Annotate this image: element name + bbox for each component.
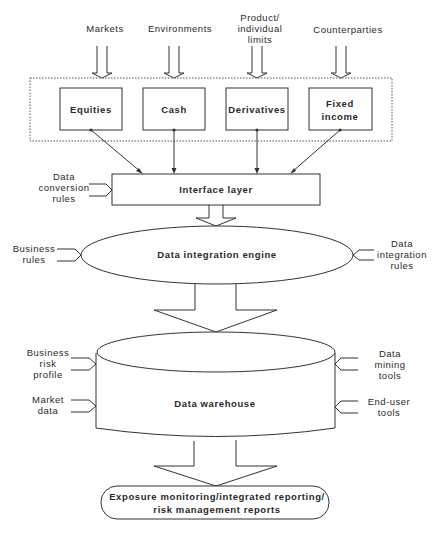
hollow-arrow-icon — [92, 46, 351, 78]
integration-engine-label: Data integration engine — [157, 249, 276, 260]
business-rules-2: rules — [22, 254, 45, 265]
side-arrow-icon — [71, 400, 96, 412]
data-mining-tools-3: tools — [379, 370, 402, 381]
derivatives-label: Derivatives — [228, 104, 285, 115]
end-user-tools-2: tools — [378, 407, 401, 418]
data-conversion-rules-2: conversion — [39, 182, 90, 193]
market-data-1: Market — [32, 394, 64, 405]
hollow-arrow-icon — [154, 440, 277, 486]
hollow-arrow-icon — [196, 205, 236, 226]
business-risk-profile-3: profile — [33, 369, 62, 380]
output-line-1: Exposure monitoring/integrated reporting… — [109, 491, 325, 502]
market-data-2: data — [38, 405, 59, 416]
data-integration-rules-2: integration — [377, 249, 427, 260]
input-product-limits-2: individual — [238, 23, 283, 34]
fixed-income-label-2: income — [322, 111, 359, 122]
hollow-arrow-icon — [154, 284, 277, 332]
interface-layer-label: Interface layer — [179, 184, 252, 195]
connector-arrows — [89, 128, 341, 174]
side-arrow-icon — [353, 250, 374, 260]
data-mining-tools-1: Data — [379, 348, 401, 359]
side-arrow-icon — [89, 184, 112, 196]
side-arrow-icon — [57, 249, 81, 261]
business-risk-profile-2: risk — [40, 358, 57, 369]
data-mining-tools-2: mining — [375, 359, 406, 370]
cash-label: Cash — [161, 104, 187, 115]
side-arrow-icon — [71, 358, 96, 370]
side-arrow-icon — [335, 358, 358, 370]
input-product-limits-1: Product/ — [240, 12, 279, 23]
output-line-2: risk management reports — [153, 504, 280, 515]
side-arrow-icon — [335, 401, 358, 413]
data-conversion-rules-1: Data — [53, 171, 75, 182]
data-integration-rules-3: rules — [390, 260, 413, 271]
business-risk-profile-1: Business — [27, 347, 70, 358]
fixed-income-box — [309, 88, 372, 130]
fixed-income-label-1: Fixed — [326, 98, 354, 109]
data-warehouse-cylinder — [96, 332, 335, 437]
equities-label: Equities — [70, 104, 112, 115]
data-warehouse-label: Data warehouse — [174, 398, 255, 409]
input-product-limits-3: limits — [248, 34, 273, 45]
end-user-tools-1: End-user — [368, 396, 411, 407]
business-rules-1: Business — [13, 243, 56, 254]
data-integration-rules-1: Data — [391, 238, 413, 249]
input-counterparties: Counterparties — [313, 24, 382, 35]
data-conversion-rules-3: rules — [52, 193, 75, 204]
input-environments: Environments — [148, 23, 212, 34]
input-markets: Markets — [86, 23, 123, 34]
